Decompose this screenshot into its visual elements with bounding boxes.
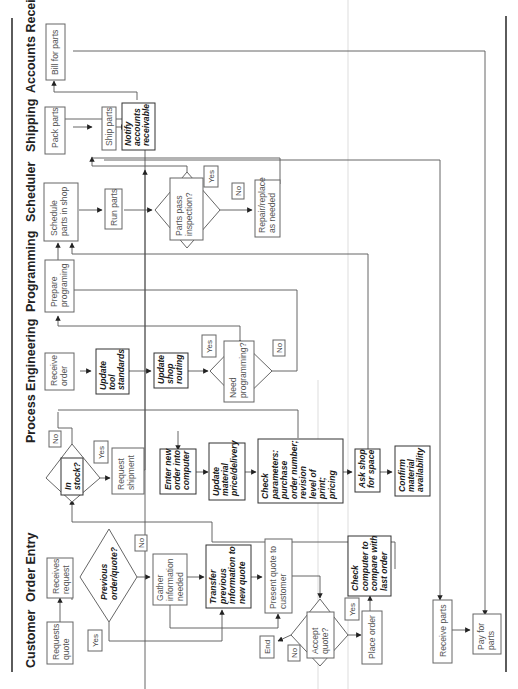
svg-text:Bill for parts: Bill for parts [50, 30, 60, 75]
svg-text:End: End [263, 640, 272, 654]
edge [72, 500, 212, 522]
node-prepare-programming: Prepare programing [45, 260, 74, 312]
svg-text:Yes: Yes [207, 170, 216, 183]
svg-text:Enter new order into: Enter new order into computer [163, 447, 191, 490]
svg-text:Run parts: Run parts [109, 189, 119, 226]
flowchart-diagram: Customer Order Entry Process Engineering… [0, 0, 518, 689]
node-ask-shop-for-space: Ask shop for space [355, 447, 380, 492]
node-schedule-parts: Schedule parts in shop [44, 183, 78, 241]
svg-text:Place order: Place order [367, 615, 377, 659]
node-transfer-previous-info: Transfer previous information to new quo… [206, 544, 251, 608]
edge [92, 157, 187, 172]
svg-text:No: No [51, 433, 60, 444]
node-check-parameters: Check parameters: purchase order number;… [258, 438, 343, 503]
label-pass-no: No [232, 183, 244, 199]
svg-text:Pack parts: Pack parts [50, 107, 60, 148]
edge [278, 635, 291, 641]
svg-text:No: No [137, 537, 146, 548]
node-check-computer: Check computer to compare with last orde… [348, 533, 391, 596]
label-accept-no: No [288, 645, 300, 661]
edge [72, 243, 368, 254]
lane-title-accounts-receivable: Accounts Receivable [24, 0, 38, 93]
node-repair-replace: Repair/replace as needed [255, 175, 280, 237]
label-accept-yes: Yes [345, 598, 359, 620]
label-previous-no: No [135, 535, 147, 551]
node-receives-request: Receives request [47, 556, 73, 598]
svg-text:Ship parts: Ship parts [104, 107, 114, 146]
label-pass-yes: Yes [204, 166, 218, 187]
lane-title-scheduler: Scheduler [24, 161, 38, 222]
lane-titles: Customer Order Entry Process Engineering… [24, 0, 38, 668]
edge [109, 610, 222, 641]
node-request-shipment: Request shipment [112, 448, 144, 494]
node-present-quote: Present quote to customer [265, 539, 292, 613]
svg-text:Yes: Yes [91, 634, 100, 647]
node-update-material: Update material price/delivery [209, 439, 245, 500]
label-need-prog-no: No [273, 340, 285, 356]
node-run-parts: Run parts [105, 189, 122, 229]
node-receive-parts: Receive parts [433, 600, 452, 663]
node-gather-information: Gather information needed [153, 554, 187, 605]
svg-text:Yes: Yes [348, 603, 357, 616]
node-previous-order-quote: Previous order/quote? [80, 529, 137, 622]
lane-title-customer: Customer [24, 610, 38, 668]
label-in-stock-no: No [49, 431, 61, 447]
lane-title-order-entry: Order Entry [24, 532, 38, 602]
lane-title-programming: Programming [24, 231, 38, 312]
node-requests-quote: Requests quote [47, 621, 73, 664]
lane-title-process-engineering: Process Engineering [24, 319, 38, 443]
svg-text:No: No [290, 647, 299, 658]
node-place-order: Place order [362, 611, 382, 664]
svg-text:No: No [275, 342, 284, 353]
lane-title-shipping: Shipping [24, 99, 38, 152]
svg-text:No: No [234, 185, 243, 196]
svg-text:Parts pass inspection?: Parts pass inspection? [174, 192, 194, 236]
node-in-stock: In stock? [46, 444, 100, 502]
node-ship-parts: Ship parts [102, 107, 116, 150]
edge [54, 81, 137, 100]
node-update-tool-standards: Update tool standards [96, 349, 129, 394]
node-update-shop-routing: Update shop routing [154, 352, 188, 388]
label-previous-yes: Yes [88, 630, 102, 651]
svg-text:Ask shop for space: Ask shop for space [357, 447, 376, 489]
svg-text:Accept quote?: Accept quote? [310, 625, 330, 654]
nodes: Bill for parts Pack parts Ship parts Not… [44, 24, 501, 666]
svg-text:Yes: Yes [205, 340, 214, 353]
label-in-stock-yes: Yes [94, 441, 108, 463]
node-notify-accounts-receivable: Notify accounts receivable [122, 103, 155, 150]
node-pack-parts: Pack parts [45, 107, 65, 154]
label-need-prog-yes: Yes [202, 335, 216, 357]
node-need-programming: Need programming? [210, 340, 272, 402]
node-confirm-material: Confirm material availability [395, 446, 430, 496]
node-receive-order: Receive order [45, 353, 74, 390]
svg-text:Request shipment: Request shipment [116, 455, 136, 490]
node-bill-for-parts: Bill for parts [46, 24, 65, 80]
node-pay-for-parts: Pay for parts [473, 614, 501, 654]
edge [292, 576, 320, 598]
node-end: End [260, 636, 274, 658]
svg-text:Receive parts: Receive parts [438, 604, 448, 657]
node-enter-new-order: Enter new order into computer [160, 447, 196, 494]
svg-text:Yes: Yes [97, 446, 106, 459]
